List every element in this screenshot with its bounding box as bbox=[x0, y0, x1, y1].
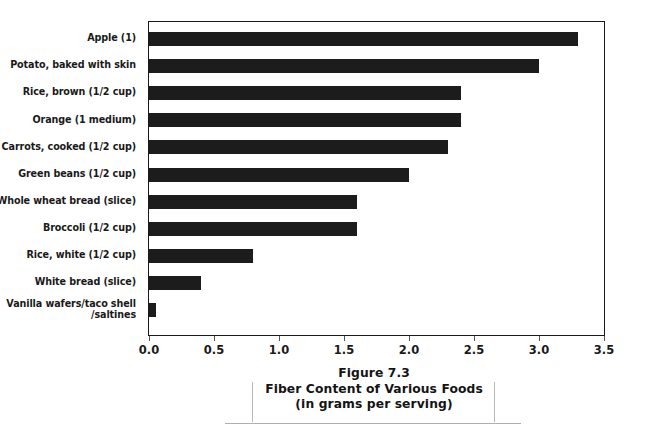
x-tick-label: 2.0 bbox=[399, 343, 419, 357]
x-tick-mark bbox=[344, 336, 345, 341]
category-label: Broccoli (1/2 cup) bbox=[0, 222, 136, 234]
caption-rule-bottom bbox=[225, 423, 521, 424]
caption-line-figure-number: Figure 7.3 bbox=[228, 366, 520, 382]
category-axis-labels: Apple (1)Potato, baked with skinRice, br… bbox=[0, 22, 142, 335]
x-axis: 0.00.51.01.52.02.53.03.5 bbox=[148, 336, 605, 362]
figure-caption: Figure 7.3 Fiber Content of Various Food… bbox=[228, 366, 520, 413]
bar bbox=[149, 303, 156, 317]
x-tick-label: 0.0 bbox=[139, 343, 159, 357]
x-tick-label: 0.5 bbox=[204, 343, 224, 357]
category-label: Apple (1) bbox=[0, 32, 136, 44]
category-label: Carrots, cooked (1/2 cup) bbox=[0, 141, 136, 153]
x-tick-mark bbox=[474, 336, 475, 341]
x-tick-mark bbox=[604, 336, 605, 341]
category-label: Potato, baked with skin bbox=[0, 59, 136, 71]
bar bbox=[149, 276, 201, 290]
category-label: Whole wheat bread (slice) bbox=[0, 195, 136, 207]
category-label: Orange (1 medium) bbox=[0, 114, 136, 126]
x-tick-label: 1.0 bbox=[269, 343, 289, 357]
bar bbox=[149, 32, 578, 46]
bar-series bbox=[149, 22, 604, 335]
bar bbox=[149, 222, 357, 236]
x-tick-mark bbox=[214, 336, 215, 341]
caption-line-units: (in grams per serving) bbox=[228, 397, 520, 413]
category-label: White bread (slice) bbox=[0, 276, 136, 288]
caption-line-title: Fiber Content of Various Foods bbox=[228, 382, 520, 398]
bar bbox=[149, 113, 461, 127]
x-tick-mark bbox=[149, 336, 150, 341]
category-label: Rice, brown (1/2 cup) bbox=[0, 86, 136, 98]
x-tick-mark bbox=[539, 336, 540, 341]
bar bbox=[149, 86, 461, 100]
x-tick-mark bbox=[409, 336, 410, 341]
category-label: Green beans (1/2 cup) bbox=[0, 168, 136, 180]
figure-container: Apple (1)Potato, baked with skinRice, br… bbox=[0, 0, 648, 445]
category-label: Vanilla wafers/taco shell /saltines bbox=[0, 298, 136, 321]
bar bbox=[149, 140, 448, 154]
bar bbox=[149, 168, 409, 182]
category-label: Rice, white (1/2 cup) bbox=[0, 249, 136, 261]
bar bbox=[149, 249, 253, 263]
x-tick-label: 3.0 bbox=[529, 343, 549, 357]
x-tick-label: 3.5 bbox=[594, 343, 614, 357]
x-tick-label: 2.5 bbox=[464, 343, 484, 357]
x-tick-mark bbox=[279, 336, 280, 341]
bar bbox=[149, 59, 539, 73]
x-tick-label: 1.5 bbox=[334, 343, 354, 357]
bar bbox=[149, 195, 357, 209]
